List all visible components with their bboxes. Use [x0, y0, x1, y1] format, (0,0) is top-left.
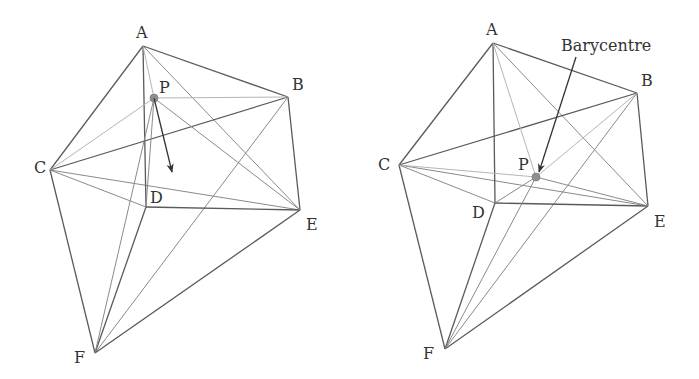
edge-DE	[146, 207, 300, 210]
displacement-arrow-icon	[154, 98, 172, 172]
edge-CE	[50, 170, 300, 210]
edge-DE	[495, 203, 648, 206]
segment-PF	[445, 177, 536, 349]
edge-EF	[445, 206, 648, 349]
segment-PE	[154, 98, 300, 210]
edge-BF	[95, 97, 288, 353]
vertex-label-d: D	[472, 203, 485, 222]
vertex-label-c: C	[378, 155, 390, 174]
vertex-label-a: A	[485, 20, 498, 39]
vertex-label-p: P	[159, 78, 170, 97]
segment-PC	[50, 98, 154, 170]
vertex-label-d: D	[150, 188, 163, 207]
segment-PF	[95, 98, 154, 353]
edge-BE	[288, 97, 300, 210]
segment-PA	[493, 43, 536, 177]
edge-CF	[50, 170, 95, 353]
segment-PC	[399, 165, 536, 177]
vertex-label-e: E	[654, 212, 666, 231]
edge-EF	[95, 210, 300, 353]
segment-PD	[495, 177, 536, 203]
barycentre-label: Barycentre	[561, 36, 651, 55]
edge-DF	[445, 203, 495, 349]
figure-left-polyhedron: ABCDEFP	[34, 23, 318, 367]
vertex-label-a: A	[135, 23, 148, 42]
barycentre-pointer-arrow-icon	[539, 57, 576, 172]
point-p	[532, 173, 540, 181]
vertex-label-p: P	[518, 155, 529, 174]
edge-AC	[50, 46, 143, 170]
segment-PB	[154, 97, 288, 98]
edge-DF	[95, 207, 146, 353]
segment-PA	[143, 46, 154, 98]
vertex-label-e: E	[306, 215, 318, 234]
vertex-label-c: C	[34, 158, 46, 177]
edge-BE	[637, 93, 648, 206]
diagram-canvas: ABCDEFP ABCDEFPBarycentre	[0, 0, 699, 379]
vertex-label-b: B	[292, 75, 304, 94]
edge-CF	[399, 165, 445, 349]
vertex-label-b: B	[641, 71, 653, 90]
vertex-label-f: F	[423, 344, 434, 363]
figure-right-polyhedron: ABCDEFPBarycentre	[378, 20, 666, 363]
edge-CD	[50, 170, 146, 207]
edge-AD	[493, 43, 495, 203]
edge-CD	[399, 165, 495, 203]
edge-AD	[143, 46, 146, 207]
segment-PE	[536, 177, 648, 206]
vertex-label-f: F	[74, 348, 85, 367]
edge-AC	[399, 43, 493, 165]
